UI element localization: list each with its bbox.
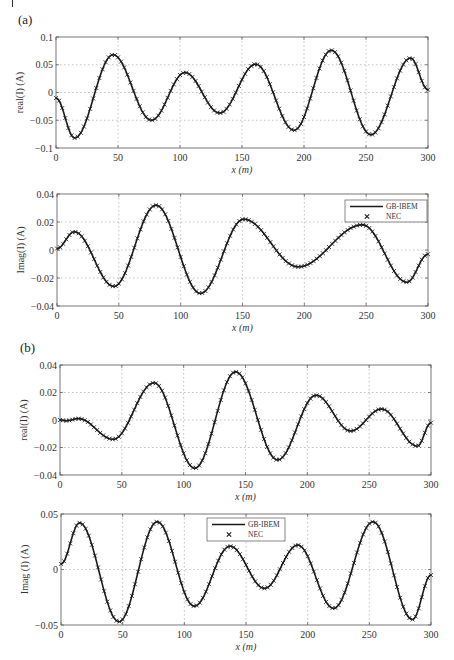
y-tick-label: −0.04	[34, 470, 57, 481]
plot-a-imag: 050100150200250300−0.04−0.0200.020.04x (…	[15, 189, 436, 335]
x-tick-label: 0	[55, 310, 60, 321]
y-tick-label: 0	[48, 87, 53, 98]
figure: (a) (b) 050100150200250300−0.1−0.0500.05…	[0, 0, 454, 660]
x-tick-label: 50	[118, 629, 128, 640]
legend-label-nec: NEC	[248, 530, 263, 539]
x-tick-label: 250	[359, 310, 374, 321]
x-tick-label: 150	[235, 152, 250, 163]
plot-b-imag: 050100150200250300−0.0500.05x (m)Imag (I…	[19, 509, 439, 654]
grid-lines	[56, 37, 428, 148]
plot-a-real: 050100150200250300−0.1−0.0500.050.1x (m)…	[0, 0, 454, 660]
legend: GB-IBEMNEC	[207, 518, 285, 541]
x-tick-label: 150	[235, 310, 250, 321]
x-tick-label: 100	[177, 629, 192, 640]
x-tick-label: 250	[359, 152, 374, 163]
y-axis-label: real(I) (A)	[14, 72, 26, 113]
x-tick-label: 300	[421, 310, 436, 321]
x-axis-label: x (m)	[231, 164, 253, 176]
y-axis-label: Imag(I) (A)	[15, 227, 27, 274]
x-axis-label: x (m)	[234, 491, 256, 503]
y-tick-label: 0.02	[40, 387, 58, 398]
plot-a-real: 050100150200250300−0.1−0.0500.050.1x (m)…	[14, 32, 436, 177]
x-tick-label: 0	[58, 479, 63, 490]
y-tick-label: −0.05	[30, 115, 53, 126]
plot-b-real: 050100150200250300−0.04−0.0200.020.04x (…	[18, 360, 439, 504]
x-tick-label: 250	[362, 479, 377, 490]
y-tick-label: 0	[53, 564, 58, 575]
y-tick-label: −0.04	[31, 301, 54, 312]
x-axis-label: x (m)	[231, 322, 253, 334]
x-tick-label: 0	[59, 629, 64, 640]
y-tick-label: 0.05	[41, 509, 59, 520]
legend: GB-IBEMNEC	[345, 200, 427, 222]
x-tick-label: 150	[238, 479, 253, 490]
x-tick-label: 50	[113, 152, 123, 163]
y-tick-label: 0.04	[40, 360, 58, 371]
legend-label-gb-ibem: GB-IBEM	[386, 202, 418, 211]
y-tick-label: 0.04	[37, 189, 55, 200]
x-tick-label: 200	[300, 479, 315, 490]
y-tick-label: −0.05	[35, 620, 58, 631]
y-tick-label: 0	[49, 245, 54, 256]
x-tick-label: 100	[173, 310, 188, 321]
x-tick-label: 200	[300, 629, 315, 640]
y-axis-label: real(I) (A)	[18, 399, 30, 440]
x-tick-label: 200	[297, 152, 312, 163]
x-tick-label: 150	[239, 629, 254, 640]
x-tick-label: 200	[297, 310, 312, 321]
x-axis-label: x (m)	[235, 641, 257, 653]
x-tick-label: 50	[114, 310, 124, 321]
y-tick-label: −0.02	[31, 273, 54, 284]
grid-lines	[60, 365, 431, 475]
x-tick-label: 300	[424, 479, 439, 490]
y-tick-label: −0.02	[34, 442, 57, 453]
x-tick-label: 300	[424, 629, 439, 640]
x-tick-label: 250	[362, 629, 377, 640]
y-tick-label: 0.02	[37, 217, 55, 228]
x-tick-label: 0	[54, 152, 59, 163]
x-tick-label: 100	[173, 152, 188, 163]
y-tick-label: 0.05	[36, 59, 54, 70]
y-tick-label: 0	[52, 415, 57, 426]
x-tick-label: 300	[421, 152, 436, 163]
x-tick-label: 50	[117, 479, 127, 490]
y-axis-label: Imag (I) (A)	[19, 545, 31, 594]
y-tick-label: −0.1	[35, 143, 53, 154]
x-tick-label: 100	[176, 479, 191, 490]
y-tick-label: 0.1	[41, 32, 54, 43]
legend-label-gb-ibem: GB-IBEM	[248, 520, 280, 529]
legend-label-nec: NEC	[386, 212, 401, 221]
